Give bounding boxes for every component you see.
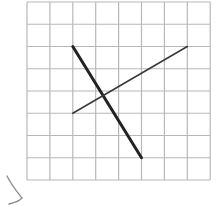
grid-lines [27,2,210,180]
pencil-stroke-mark [7,176,22,204]
grid-diagram [0,0,216,206]
line-segments [73,47,188,158]
thin-segment [73,47,188,114]
thick-segment [73,47,142,158]
